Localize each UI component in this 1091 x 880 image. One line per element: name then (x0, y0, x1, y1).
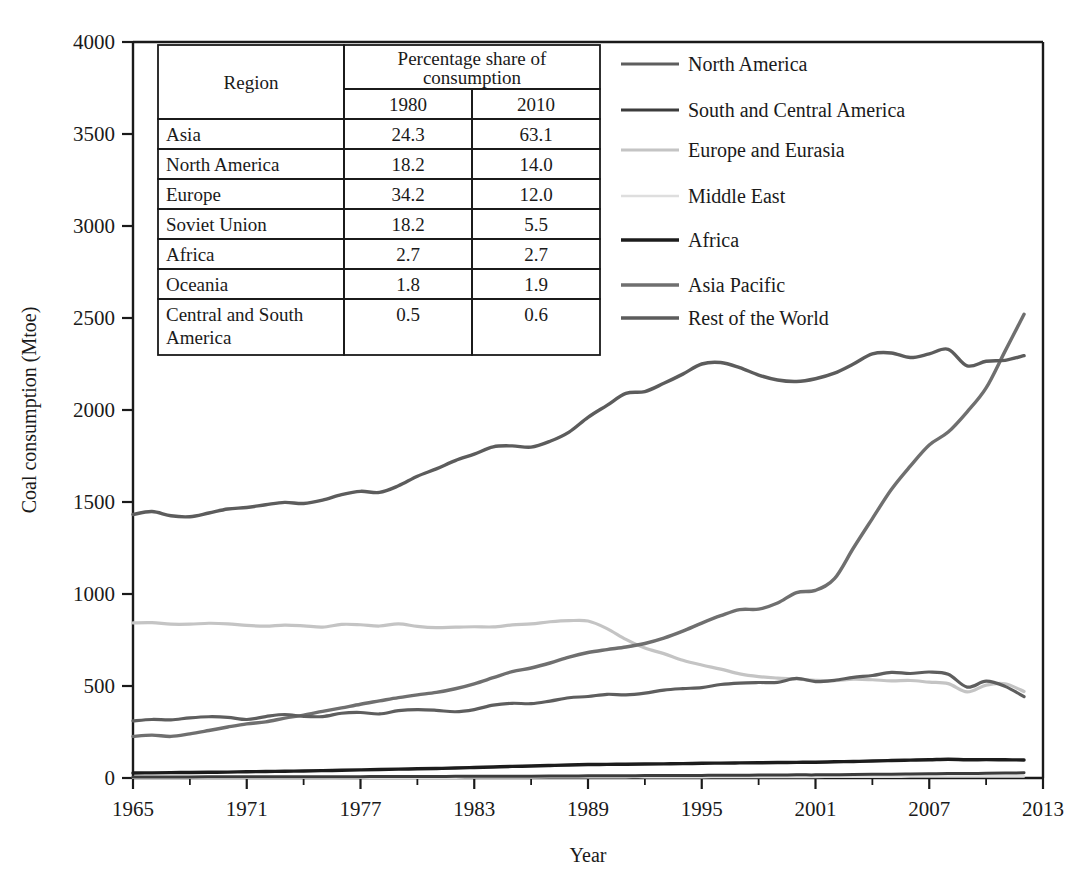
chart-svg: 05001000150020002500300035004000 1965197… (0, 0, 1091, 880)
y-tick-label: 2500 (73, 306, 115, 330)
x-tick-label: 2013 (1022, 797, 1064, 821)
table-row-2010: 14.0 (519, 154, 552, 175)
x-axis-title: Year (570, 844, 607, 866)
table-row-2010: 5.5 (524, 214, 548, 235)
x-tick-label: 1965 (112, 797, 154, 821)
y-tick-label: 0 (105, 766, 116, 790)
table-row-region: Oceania (166, 274, 229, 295)
y-tick-label: 1000 (73, 582, 115, 606)
table-row-1980: 18.2 (391, 214, 424, 235)
y-tick-label: 4000 (73, 30, 115, 54)
table-row-2010: 0.6 (524, 304, 548, 325)
legend-item-label: Asia Pacific (688, 274, 785, 296)
y-tick-label: 500 (84, 674, 116, 698)
table-row-2010: 1.9 (524, 274, 548, 295)
x-tick-label: 1989 (567, 797, 609, 821)
x-tick-label: 1977 (340, 797, 382, 821)
legend-item-label: North America (688, 53, 808, 75)
table-row-1980: 18.2 (391, 154, 424, 175)
x-tick-label: 2001 (795, 797, 837, 821)
y-axis-title: Coal consumption (Mtoe) (18, 307, 41, 514)
series-line (133, 759, 1024, 773)
table-row-region: Central and South (166, 304, 304, 325)
x-tick-label: 1995 (681, 797, 723, 821)
table-row-1980: 34.2 (391, 184, 424, 205)
y-axis-ticks: 05001000150020002500300035004000 (73, 30, 133, 790)
coal-consumption-figure: 05001000150020002500300035004000 1965197… (0, 0, 1091, 880)
table-row-region: Europe (166, 184, 221, 205)
y-tick-label: 1500 (73, 490, 115, 514)
table-row-region: North America (166, 154, 280, 175)
x-tick-label: 1971 (226, 797, 268, 821)
x-tick-label: 2007 (908, 797, 950, 821)
legend-item-label: Europe and Eurasia (688, 139, 845, 162)
table-header-2010: 2010 (517, 94, 555, 115)
legend-item-label: Middle East (688, 185, 786, 207)
table-row-1980: 0.5 (396, 304, 420, 325)
table-row-1980: 2.7 (396, 244, 420, 265)
table-row-2010: 2.7 (524, 244, 548, 265)
table-header-1980: 1980 (389, 94, 427, 115)
table-header-group-line2: consumption (423, 67, 522, 88)
y-tick-label: 3500 (73, 122, 115, 146)
inset-table: RegionPercentage share ofconsumption1980… (158, 45, 600, 355)
table-row-region: Africa (166, 244, 215, 265)
series-paths (133, 314, 1024, 778)
table-row-region: Asia (166, 124, 201, 145)
table-row-2010: 12.0 (519, 184, 552, 205)
chart-legend: North AmericaSouth and Central AmericaEu… (621, 53, 905, 329)
table-row-region: Soviet Union (166, 214, 267, 235)
legend-item-label: Rest of the World (688, 307, 829, 329)
y-tick-label: 3000 (73, 214, 115, 238)
table-row-1980: 1.8 (396, 274, 420, 295)
table-row-1980: 24.3 (391, 124, 424, 145)
table-row-region-cont: America (166, 327, 232, 348)
table-header-group-line1: Percentage share of (398, 48, 547, 69)
table-header-region: Region (224, 72, 279, 93)
table-row-2010: 63.1 (519, 124, 552, 145)
x-axis-ticks: 196519711977198319891995200120072013 (112, 778, 1064, 821)
x-tick-label: 1983 (453, 797, 495, 821)
y-tick-label: 2000 (73, 398, 115, 422)
legend-item-label: Africa (688, 229, 739, 251)
legend-item-label: South and Central America (688, 99, 905, 121)
